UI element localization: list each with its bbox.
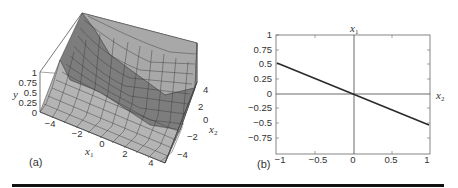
svg-text:0.5: 0.5 xyxy=(259,58,272,69)
svg-text:−0.25: −0.25 xyxy=(248,102,272,113)
svg-text:−0.75: −0.75 xyxy=(248,132,272,143)
svg-text:0: 0 xyxy=(203,114,208,125)
a-x2-axis-label: x2 xyxy=(208,123,218,137)
svg-text:0: 0 xyxy=(267,88,272,99)
b-y-tick-labels: 1 0.75 0.5 0.25 0 −0.25 −0.5 −0.75 xyxy=(248,29,272,143)
panel-b-label: (b) xyxy=(257,158,270,170)
figure-canvas: 1 0.75 0.5 0.25 0 y −4 −2 0 2 4 x1 4 2 0… xyxy=(0,0,458,188)
b-x-tick-labels: −1 −0.5 0 0.5 1 xyxy=(275,154,430,165)
a-y-tick-labels: 1 0.75 0.5 0.25 0 xyxy=(19,67,38,118)
svg-text:1: 1 xyxy=(424,154,429,165)
svg-text:2: 2 xyxy=(122,148,127,159)
panel-a-surface-plot: 1 0.75 0.5 0.25 0 y −4 −2 0 2 4 x1 4 2 0… xyxy=(12,13,218,168)
panel-a-label: (a) xyxy=(29,156,42,168)
a-x1-axis-label: x1 xyxy=(84,145,94,159)
svg-text:2: 2 xyxy=(198,101,203,112)
b-x2-axis-label: x2 xyxy=(435,89,445,103)
bottom-rule xyxy=(12,184,444,187)
svg-text:4: 4 xyxy=(203,84,208,95)
svg-text:−2: −2 xyxy=(72,128,83,139)
a-y-axis-label: y xyxy=(12,88,18,100)
svg-text:−1: −1 xyxy=(275,154,286,165)
svg-text:4: 4 xyxy=(148,157,153,168)
svg-text:0.25: 0.25 xyxy=(254,73,273,84)
b-x1-axis-label: x1 xyxy=(349,22,359,36)
svg-text:−4: −4 xyxy=(45,118,56,129)
svg-text:−2: −2 xyxy=(187,131,198,142)
svg-text:0: 0 xyxy=(350,154,355,165)
svg-text:−0.5: −0.5 xyxy=(309,154,328,165)
svg-text:0: 0 xyxy=(99,138,104,149)
svg-text:−4: −4 xyxy=(177,149,188,160)
svg-text:0.75: 0.75 xyxy=(254,44,273,55)
svg-text:1: 1 xyxy=(267,29,272,40)
svg-text:0: 0 xyxy=(32,107,37,118)
panel-b-line-plot: 1 0.75 0.5 0.25 0 −0.25 −0.5 −0.75 −1 −0… xyxy=(248,22,445,170)
svg-text:−0.5: −0.5 xyxy=(253,117,272,128)
svg-text:0.5: 0.5 xyxy=(384,154,397,165)
